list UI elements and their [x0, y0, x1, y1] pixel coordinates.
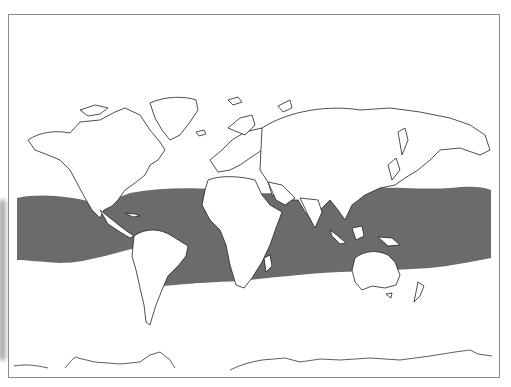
arctic-islands	[80, 105, 108, 116]
antarctica-coast	[14, 350, 492, 370]
new-zealand	[414, 282, 424, 302]
world-map	[0, 0, 511, 387]
iceland	[196, 130, 206, 136]
svalbard	[228, 97, 242, 105]
novaya-zemlya	[278, 100, 292, 112]
tasmania	[386, 293, 392, 298]
greenland	[150, 97, 198, 140]
